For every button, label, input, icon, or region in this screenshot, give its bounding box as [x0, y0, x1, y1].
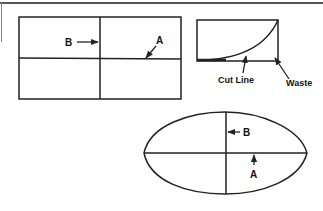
rectangle-figure: B A [19, 17, 181, 99]
ellipse-figure: B A [144, 112, 307, 194]
cut-curve [197, 20, 278, 60]
label-a: A [250, 169, 257, 180]
arrow-a-icon [146, 46, 156, 58]
cut-line-figure: Cut Line Waste [197, 20, 312, 88]
label-cut-line: Cut Line [218, 75, 254, 85]
rectangle-horizontal-axis [19, 58, 181, 59]
arrow-waste-icon [275, 58, 289, 79]
label-b: B [243, 127, 250, 138]
label-b: B [65, 37, 72, 48]
arrow-cut-line-icon [243, 56, 246, 73]
label-a: A [156, 35, 163, 46]
label-waste: Waste [286, 78, 312, 88]
diagram-canvas: B A Cut Line Waste B A [0, 0, 323, 211]
